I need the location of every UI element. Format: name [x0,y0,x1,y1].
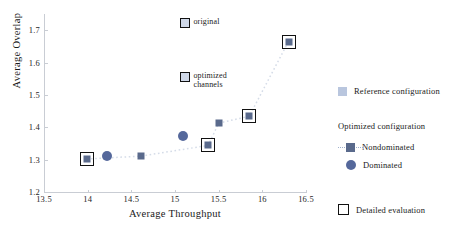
legend-label-detailed: Detailed evaluation [356,205,425,215]
legend-item-reference: Reference configuration [338,86,440,96]
plot-area: 13.51414.51515.51616.5 1.21.31.41.51.61.… [0,0,330,235]
legend-item-detailed: Detailed evaluation [338,204,425,215]
dominated-swatch-icon [346,160,356,170]
annotation-label: original [193,18,219,27]
legend-label-dominated: Dominated [363,160,402,170]
data-point-marker [178,131,188,141]
chart-legend: Reference configuration Optimized config… [330,0,460,235]
reference-swatch-icon [338,87,347,96]
legend-header-optimized: Optimized configuration [338,121,425,131]
data-point-marker [102,151,112,161]
detailed-evaluation-box [242,109,256,123]
annotation-marker-icon [180,18,190,28]
legend-item-dominated: Dominated [346,160,402,170]
detailed-evaluation-box [80,152,94,166]
legend-label-reference: Reference configuration [354,86,440,96]
data-points-layer [0,0,330,235]
detailed-evaluation-box [282,35,296,49]
legend-label-nondominated: Nondominated [362,142,414,152]
detailed-evaluation-box [201,138,215,152]
annotation-label: optimized channels [193,72,226,89]
legend-item-nondominated: Nondominated [346,142,414,152]
nondominated-swatch-icon [346,143,355,152]
annotation-marker-icon [180,72,190,82]
detailed-evaluation-swatch-icon [338,204,349,215]
data-point-marker [215,120,222,127]
chart-figure: 13.51414.51515.51616.5 1.21.31.41.51.61.… [0,0,460,235]
data-point-marker [137,153,144,160]
